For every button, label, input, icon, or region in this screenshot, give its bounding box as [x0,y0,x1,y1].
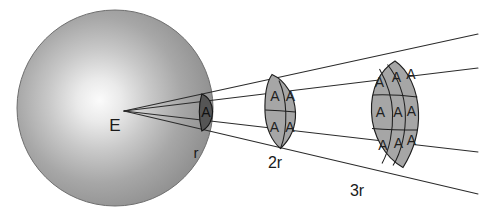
inverse-square-law-figure: A r A A A A 2r [0,0,499,219]
patch-2r-cell-label: A [270,119,280,135]
energy-source-sphere [17,10,213,206]
source-label-E: E [109,116,120,135]
patch-3r-cell-label: A [376,104,386,120]
patch-3r-cell-label: A [393,104,403,120]
patch-2r: A A A A [265,75,296,149]
distance-label-3r: 3r [350,182,365,199]
patch-3r-cell-label: A [394,135,404,151]
sphere-body [17,10,213,206]
distance-label-r: r [194,144,199,161]
patch-3r-cell-label: A [375,74,385,90]
distance-label-2r: 2r [268,154,283,171]
patch-3r-cell-label: A [392,69,402,85]
patch-3r-cell-label: A [378,137,388,153]
diagram-canvas: A r A A A A 2r [0,0,499,219]
patch-2r-cell-label: A [286,88,296,104]
patch-2r-cell-label: A [285,119,295,135]
patch-3r-cell-label: A [407,103,417,119]
patch-3r-cell-label: A [406,66,416,82]
patch-3r-cell-label: A [407,132,417,148]
patch-3r: A A A A A A A A A [371,61,418,168]
patch-2r-cell-label: A [270,88,280,104]
patch-r-cell-label: A [201,104,211,120]
